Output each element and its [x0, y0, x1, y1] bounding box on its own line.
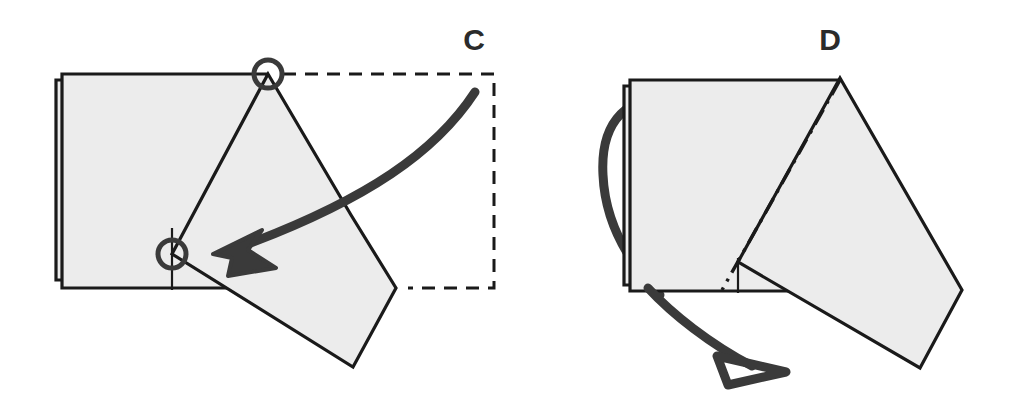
panel-d-turnover-arrow-head [717, 356, 786, 385]
diagram-canvas: .paper { fill: #ececec; stroke: #1a1a1a;… [0, 0, 1017, 412]
panel-d-label: D [819, 23, 841, 56]
panel-c-label: C [463, 23, 485, 56]
panel-c: C [56, 23, 494, 367]
panel-d-turnover-arrow-shaft-front [648, 288, 752, 366]
origami-diagram-root: .paper { fill: #ececec; stroke: #1a1a1a;… [0, 0, 1017, 412]
panel-d: D [603, 23, 962, 385]
